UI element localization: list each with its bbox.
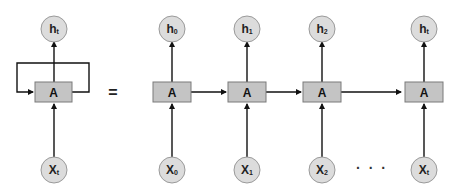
cell-label: A xyxy=(243,86,252,100)
cell-label: A xyxy=(49,86,58,100)
unrolled-rnn: h0 A X0 h1 A X1 xyxy=(153,16,443,183)
folded-rnn: ht A Xt xyxy=(17,16,89,183)
ellipsis: · · · xyxy=(356,160,388,176)
rnn-diagram: ht A Xt = h0 A X0 xyxy=(0,0,454,193)
equals-sign: = xyxy=(108,84,117,101)
timestep-2: h2 A X2 xyxy=(303,16,341,183)
cell-label: A xyxy=(168,86,177,100)
timestep-1: h1 A X1 xyxy=(228,16,266,183)
cell-label: A xyxy=(318,86,327,100)
cell-label: A xyxy=(420,86,429,100)
timestep-0: h0 A X0 xyxy=(153,16,191,183)
timestep-t: ht A Xt xyxy=(405,16,443,183)
